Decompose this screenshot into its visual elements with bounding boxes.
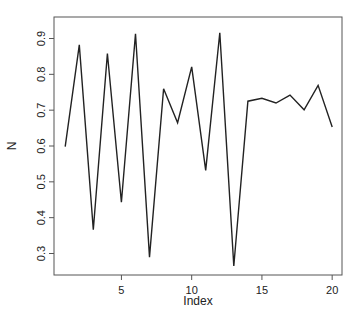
x-tick-label: 15 — [256, 284, 268, 296]
y-axis: 0.30.40.50.60.70.80.9 — [35, 31, 54, 261]
x-axis-label: Index — [183, 294, 212, 308]
y-tick-label: 0.3 — [35, 246, 47, 261]
x-tick-label: 5 — [118, 284, 124, 296]
plot-frame — [54, 17, 342, 275]
x-tick-label: 20 — [326, 284, 338, 296]
y-tick-label: 0.7 — [35, 103, 47, 118]
data-line — [65, 33, 332, 266]
y-tick-label: 0.8 — [35, 67, 47, 82]
y-tick-label: 0.9 — [35, 31, 47, 46]
y-tick-label: 0.4 — [35, 210, 47, 225]
x-axis: 5101520 — [118, 275, 338, 296]
y-tick-label: 0.6 — [35, 138, 47, 153]
y-tick-label: 0.5 — [35, 174, 47, 189]
y-axis-label: N — [5, 142, 19, 151]
line-chart: 0.30.40.50.60.70.80.9 5101520 Index N — [0, 0, 358, 324]
